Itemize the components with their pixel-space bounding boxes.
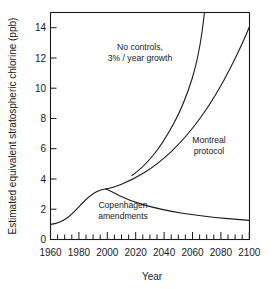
y-axis-title: Estimated equivalent stratospheric chlor… [7, 18, 18, 235]
annotation-no-controls-line1: No controls, [117, 42, 163, 52]
x-axis-tick-labels: 1960 1980 2000 2020 2040 2060 2080 2100 [39, 247, 260, 258]
y-tick-label-2: 2 [40, 204, 46, 215]
chart-figure: 0 2 4 6 8 10 12 14 [0, 0, 275, 289]
y-axis-tick-labels: 0 2 4 6 8 10 12 14 [35, 22, 47, 245]
x-tick-label-2060: 2060 [181, 247, 204, 258]
y-tick-label-6: 6 [40, 143, 46, 154]
annotation-no-controls-line2: 3% / year growth [108, 53, 173, 63]
annotation-montreal-line2: protocol [194, 146, 225, 156]
annotation-montreal: Montreal protocol [192, 135, 226, 156]
annotation-copenhagen-line1: Copenhagen [98, 200, 147, 210]
chlorine-projection-chart: 0 2 4 6 8 10 12 14 [0, 0, 275, 289]
x-tick-label-1960: 1960 [39, 247, 62, 258]
x-tick-label-2100: 2100 [238, 247, 261, 258]
annotation-copenhagen-line2: amendments [98, 211, 148, 221]
y-tick-label-14: 14 [35, 22, 47, 33]
x-tick-label-2000: 2000 [96, 247, 119, 258]
x-axis-minor-ticks [58, 235, 243, 240]
y-axis-ticks [51, 28, 57, 240]
x-tick-label-2080: 2080 [210, 247, 233, 258]
y-tick-label-12: 12 [35, 53, 47, 64]
x-axis-title: Year [142, 271, 163, 282]
annotation-no-controls: No controls, 3% / year growth [108, 42, 173, 63]
y-tick-label-4: 4 [40, 174, 46, 185]
x-tick-label-2040: 2040 [153, 247, 176, 258]
y-tick-label-8: 8 [40, 113, 46, 124]
y-tick-label-0: 0 [40, 234, 46, 245]
y-tick-label-10: 10 [35, 83, 47, 94]
x-tick-label-2020: 2020 [125, 247, 148, 258]
x-tick-label-1980: 1980 [68, 247, 91, 258]
annotation-copenhagen: Copenhagen amendments [98, 200, 148, 221]
annotation-montreal-line1: Montreal [192, 135, 226, 145]
